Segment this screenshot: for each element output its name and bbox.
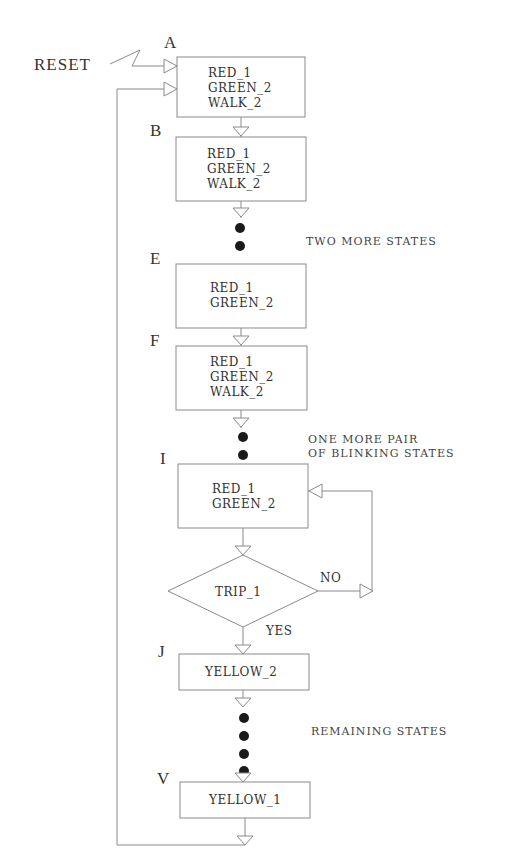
state-a-line-3: WALK_2 bbox=[208, 96, 262, 110]
continuation-dot-icon bbox=[235, 223, 245, 233]
state-j-line-1: YELLOW_2 bbox=[204, 665, 277, 679]
note-two-more-states: TWO MORE STATES bbox=[306, 235, 437, 248]
cropped-caption-fragment bbox=[0, 852, 506, 866]
arrow-right-icon bbox=[360, 584, 373, 598]
state-label-f: F bbox=[150, 331, 159, 350]
state-box-i bbox=[178, 464, 308, 528]
state-label-b: B bbox=[150, 121, 161, 140]
arrow-down-icon bbox=[237, 836, 253, 845]
decision-label: TRIP_1 bbox=[215, 585, 262, 599]
continuation-dot-icon bbox=[238, 432, 248, 442]
state-label-i: I bbox=[160, 449, 166, 468]
state-f-line-1: RED_1 bbox=[210, 355, 254, 369]
arrow-down-icon bbox=[235, 698, 251, 707]
state-i-line-2: GREEN_2 bbox=[212, 497, 276, 511]
arrow-down-icon bbox=[233, 336, 249, 345]
state-label-j: J bbox=[158, 642, 165, 661]
state-b-line-3: WALK_2 bbox=[207, 177, 261, 191]
state-label-a: A bbox=[164, 33, 177, 52]
continuation-dot-icon bbox=[239, 749, 249, 759]
continuation-dot-icon bbox=[239, 713, 249, 723]
state-label-e: E bbox=[150, 249, 160, 268]
loop-arrow-left-icon bbox=[309, 484, 322, 498]
state-f-line-3: WALK_2 bbox=[210, 385, 264, 399]
arrow-down-icon bbox=[233, 208, 249, 217]
state-e-line-1: RED_1 bbox=[210, 281, 254, 295]
state-i-line-1: RED_1 bbox=[212, 482, 256, 496]
arrow-down-icon bbox=[233, 127, 249, 136]
state-a-line-1: RED_1 bbox=[208, 66, 252, 80]
note-remaining-states: REMAINING STATES bbox=[311, 725, 447, 738]
reset-label: RESET bbox=[34, 55, 91, 74]
note-blinking-states: OF BLINKING STATES bbox=[308, 447, 455, 460]
continuation-dot-icon bbox=[238, 450, 248, 460]
arrow-down-icon bbox=[235, 546, 251, 555]
continuation-dot-icon bbox=[235, 241, 245, 251]
loop-arrow-icon bbox=[164, 82, 177, 96]
note-one-more-pair: ONE MORE PAIR bbox=[308, 433, 418, 446]
decision-no-label: NO bbox=[320, 571, 341, 585]
continuation-dot-icon bbox=[239, 731, 249, 741]
state-b-line-2: GREEN_2 bbox=[207, 162, 271, 176]
state-a-line-2: GREEN_2 bbox=[208, 81, 272, 95]
decision-yes-label: YES bbox=[265, 624, 292, 638]
arrow-down-icon bbox=[235, 645, 251, 654]
arrow-down-icon bbox=[235, 773, 251, 782]
arrow-down-icon bbox=[233, 418, 249, 427]
reset-arrow-icon bbox=[164, 59, 177, 73]
state-e-line-2: GREEN_2 bbox=[210, 296, 274, 310]
state-b-line-1: RED_1 bbox=[207, 147, 251, 161]
state-diagram: RESET A RED_1 GREEN_2 WALK_2 B RED_1 GRE… bbox=[0, 0, 506, 866]
state-f-line-2: GREEN_2 bbox=[210, 370, 274, 384]
state-label-v: V bbox=[157, 769, 170, 788]
state-v-line-1: YELLOW_1 bbox=[208, 793, 281, 807]
